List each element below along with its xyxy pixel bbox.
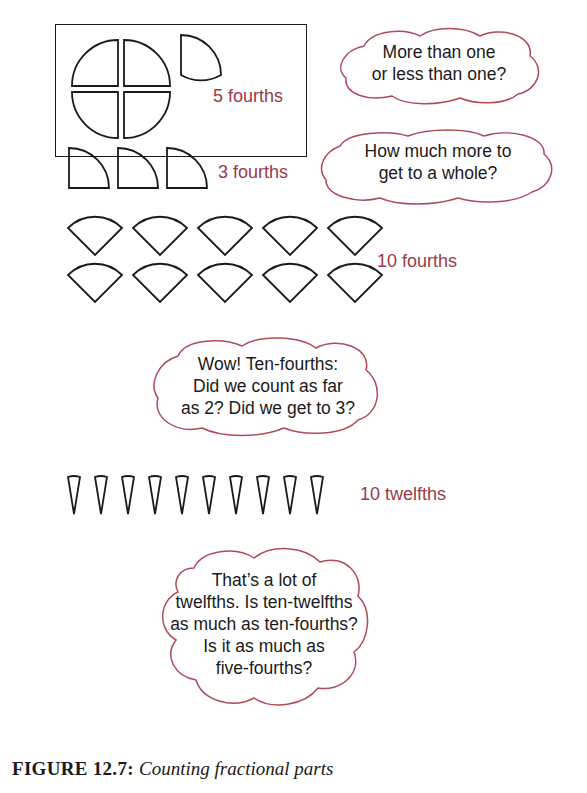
twelfth-wedges — [68, 476, 323, 514]
bubble-line: five-fourths? — [154, 657, 374, 679]
quarter-circle-icon — [118, 148, 158, 188]
bubble-line: Wow! Ten-fourths: — [150, 353, 386, 375]
bubble-line: That’s a lot of — [154, 569, 374, 591]
wedge-row-2 — [68, 264, 382, 302]
panel-label-three-fourths: 3 fourths — [218, 162, 288, 183]
quarter-circle-icon — [69, 148, 109, 188]
thought-bubble-how-much-more: How much more to get to a whole? — [318, 124, 558, 208]
wedge-row-1 — [68, 217, 382, 255]
figure-caption: FIGURE 12.7: Counting fractional parts — [12, 758, 333, 780]
figure-caption-text: Counting fractional parts — [139, 758, 333, 779]
thought-bubble-ten-fourths: Wow! Ten-fourths: Did we count as far as… — [150, 330, 386, 440]
bubble-line: as 2? Did we get to 3? — [150, 397, 386, 419]
bubble-line: How much more to — [318, 140, 558, 162]
bubble-line: as much as ten-fourths? — [154, 613, 374, 635]
quarter-circle-icon — [181, 35, 221, 80]
bubble-line: More than one — [334, 41, 544, 63]
panel-label-ten-twelfths: 10 twelfths — [360, 484, 446, 505]
panel-label-ten-fourths: 10 fourths — [377, 251, 457, 272]
thought-bubble-twelfths: That’s a lot of twelfths. Is ten-twelfth… — [154, 540, 374, 710]
bubble-line: twelfths. Is ten-twelfths — [154, 591, 374, 613]
bubble-line: Is it as much as — [154, 635, 374, 657]
bubble-line: or less than one? — [334, 63, 544, 85]
panel-label-five-fourths: 5 fourths — [213, 86, 283, 107]
thought-bubble-more-or-less: More than one or less than one? — [334, 24, 544, 106]
bubble-line: Did we count as far — [150, 375, 386, 397]
quarter-circle-icon — [124, 40, 170, 86]
quarter-circle-icon — [124, 92, 170, 138]
quarter-circle-icon — [72, 92, 118, 138]
figure-caption-label: FIGURE 12.7: — [12, 758, 134, 779]
bubble-line: get to a whole? — [318, 162, 558, 184]
quarter-circle-icon — [72, 40, 118, 86]
quarter-circle-icon — [167, 148, 207, 188]
